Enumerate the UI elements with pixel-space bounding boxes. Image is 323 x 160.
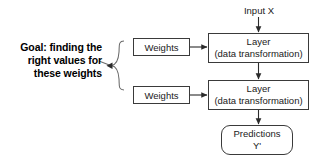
goal-annotation: Goal: finding the right values for these…	[4, 41, 102, 80]
predictions-box: Predictions Y'	[221, 125, 293, 155]
grouping-brace	[112, 41, 125, 90]
weights-box-2-label: Weights	[144, 90, 178, 101]
goal-annotation-line-3: these weights	[4, 67, 102, 80]
predictions-box-line-2: Y'	[253, 140, 261, 152]
layer-box-1: Layer (data transformation)	[208, 33, 309, 63]
predictions-box-line-1: Predictions	[234, 128, 281, 140]
layer-box-2: Layer (data transformation)	[208, 80, 309, 110]
layer-box-2-title: Layer	[247, 83, 271, 95]
weights-box-1: Weights	[133, 38, 190, 56]
diagram-canvas: Goal: finding the right values for these…	[0, 0, 323, 160]
weights-box-1-label: Weights	[144, 42, 178, 53]
goal-annotation-line-2: right values for	[4, 54, 102, 67]
brace-arrowhead	[107, 63, 113, 70]
layer-box-1-title: Layer	[247, 36, 271, 48]
layer-box-2-subtitle: (data transformation)	[214, 95, 302, 107]
weights-box-2: Weights	[133, 86, 190, 104]
layer-box-1-subtitle: (data transformation)	[214, 48, 302, 60]
input-label: Input X	[228, 5, 290, 16]
goal-annotation-line-1: Goal: finding the	[4, 41, 102, 54]
